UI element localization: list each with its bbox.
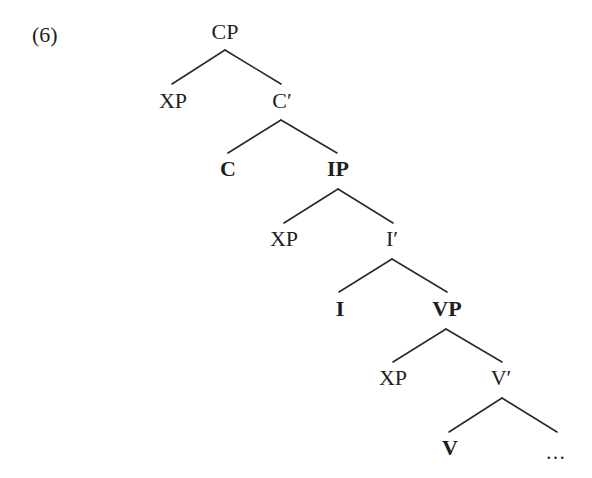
edge-vbar-v	[449, 398, 502, 432]
node-cp-specifier: XP	[159, 88, 187, 113]
edge-ibar-vp	[392, 259, 447, 292]
node-c-head: C	[220, 156, 236, 181]
node-c-bar: C′	[272, 88, 292, 113]
node-v-head: V	[442, 435, 458, 460]
edge-ip-ibar	[338, 189, 393, 223]
edge-ip-xp	[284, 189, 338, 223]
node-i-bar: I′	[386, 226, 398, 251]
edge-cbar-ip	[281, 120, 337, 153]
edge-cbar-c	[228, 120, 281, 153]
edge-vp-vbar	[446, 329, 502, 362]
node-ip: IP	[327, 156, 349, 181]
node-vp: VP	[432, 296, 461, 321]
node-v-complement-ellipsis: …	[546, 441, 569, 463]
edge-ibar-i	[339, 259, 392, 292]
edge-vp-xp	[393, 329, 446, 362]
edge-vbar-ellipsis	[502, 398, 557, 432]
node-vp-specifier: XP	[379, 365, 407, 390]
node-v-bar: V′	[491, 365, 512, 390]
tree-nodes: CP XP C′ C IP XP I′ I VP XP V′ V …	[159, 19, 569, 463]
node-cp: CP	[212, 19, 239, 44]
edge-cp-cbar	[225, 50, 281, 84]
node-i-head: I	[336, 296, 345, 321]
example-number: (6)	[32, 22, 58, 47]
node-ip-specifier: XP	[270, 226, 298, 251]
syntax-tree-diagram: (6) CP XP C′ C IP XP I′ I VP XP V′ V …	[0, 0, 592, 478]
edge-cp-xp	[172, 50, 225, 84]
